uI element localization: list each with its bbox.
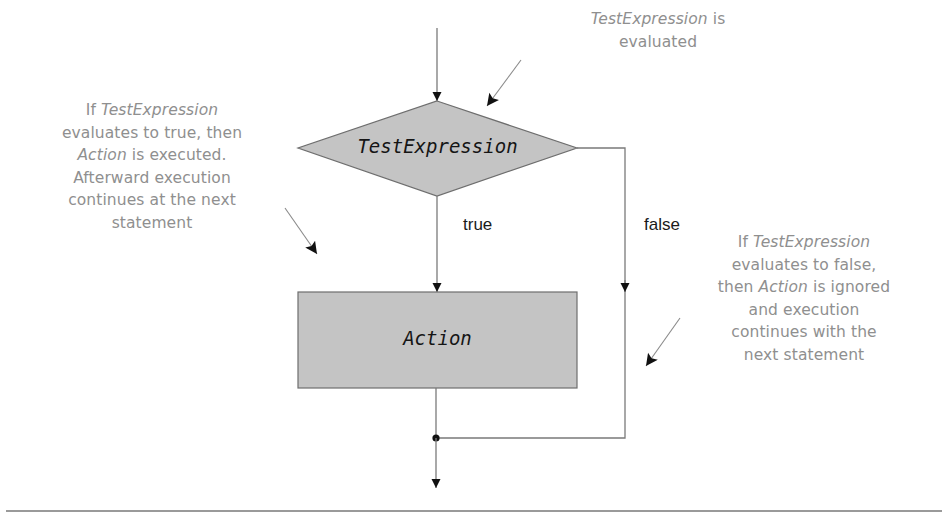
annotation-text: then (718, 278, 759, 296)
annotation-line: TestExpression is (548, 8, 768, 31)
false-branch-label: false (644, 215, 680, 235)
true-branch-label: true (463, 215, 492, 235)
annotation-line: Action is executed. (28, 144, 276, 167)
left-annotation-pointer-arrow (285, 208, 317, 254)
annotation-text: and execution (749, 301, 860, 319)
annotation-line: statement (28, 212, 276, 235)
annotation-term: Action (759, 278, 808, 296)
flowchart-canvas: TestExpression Action true false TestExp… (0, 0, 950, 526)
annotation-text: evaluates to false, (732, 256, 877, 274)
annotation-line: If TestExpression (28, 99, 276, 122)
top-annotation-pointer-arrow (487, 60, 521, 106)
decision-label: TestExpression (298, 135, 577, 157)
annotation-line: continues with the (680, 321, 928, 344)
annotation-term: TestExpression (101, 101, 218, 119)
annotation-term: Action (77, 146, 126, 164)
annotation-line: evaluated (548, 31, 768, 54)
annotation-line: and execution (680, 299, 928, 322)
right-annotation: If TestExpressionevaluates to false,then… (680, 231, 928, 366)
action-label: Action (298, 327, 577, 349)
annotation-text: If (738, 233, 753, 251)
bottom-divider (6, 510, 942, 512)
annotation-text: is executed. (127, 146, 227, 164)
annotation-text: continues with the (731, 323, 876, 341)
annotation-text: is (708, 10, 726, 28)
annotation-line: Afterward execution (28, 167, 276, 190)
annotation-text: continues at the next (68, 191, 236, 209)
annotation-line: continues at the next (28, 189, 276, 212)
annotation-line: evaluates to true, then (28, 122, 276, 145)
annotation-text: statement (112, 214, 193, 232)
annotation-line: next statement (680, 344, 928, 367)
annotation-text: is ignored (808, 278, 890, 296)
annotation-text: evaluates to true, then (62, 124, 242, 142)
left-annotation: If TestExpressionevaluates to true, then… (28, 99, 276, 234)
annotation-line: evaluates to false, (680, 254, 928, 277)
annotation-text: next statement (744, 346, 864, 364)
annotation-text: Afterward execution (73, 169, 231, 187)
annotation-term: TestExpression (753, 233, 870, 251)
right-annotation-pointer-arrow (646, 318, 680, 366)
annotation-text: evaluated (619, 33, 697, 51)
annotation-line: then Action is ignored (680, 276, 928, 299)
annotation-text: If (86, 101, 101, 119)
top-annotation: TestExpression isevaluated (548, 8, 768, 53)
annotation-line: If TestExpression (680, 231, 928, 254)
annotation-term: TestExpression (591, 10, 708, 28)
